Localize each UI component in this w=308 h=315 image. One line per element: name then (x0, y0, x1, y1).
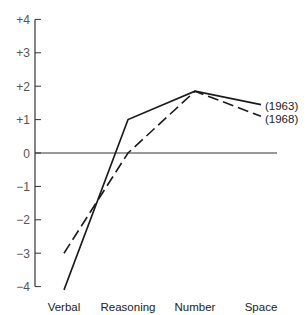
y-tick-label: −3 (16, 247, 30, 261)
data-series (64, 91, 261, 290)
legend-labels: (1963)(1968) (265, 100, 298, 126)
x-category-label: Verbal (48, 301, 81, 313)
x-axis-labels: VerbalReasoningNumberSpace (48, 301, 278, 313)
y-tick-label: +4 (16, 13, 30, 27)
series-line-1968 (64, 91, 261, 253)
x-category-label: Number (175, 301, 216, 313)
legend-label: (1968) (265, 113, 298, 125)
y-tick-label: +3 (16, 46, 30, 60)
y-tick-label: +2 (16, 80, 30, 94)
line-chart: +4+3+2+10−1−2−3−4 VerbalReasoningNumberS… (0, 0, 308, 315)
y-tick-label: +1 (16, 113, 30, 127)
y-tick-label: −1 (16, 180, 30, 194)
x-category-label: Reasoning (101, 301, 156, 313)
y-tick-label: −4 (16, 280, 30, 294)
x-category-label: Space (245, 301, 278, 313)
legend-label: (1963) (265, 100, 298, 112)
y-tick-label: −2 (16, 213, 30, 227)
y-tick-label: 0 (23, 147, 30, 161)
